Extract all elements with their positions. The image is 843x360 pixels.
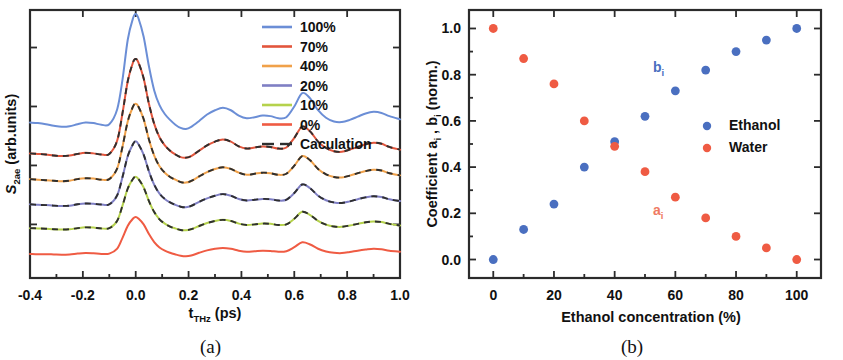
panel-b-y-tick: 0.6 [442,113,462,129]
panel-b-series-annotations: biai [653,59,664,221]
panel-b-x-tick: 100 [785,287,809,303]
panel-b-tick-marks [469,10,821,278]
panel-b-point-ethanol [489,255,498,264]
panel-b-legend-marker [703,144,711,152]
panel-b-point-water [489,24,498,33]
panel-b-point-ethanol [701,66,710,75]
panel-b-point-water [792,255,801,264]
panel-a-x-tick: 0.2 [179,287,199,303]
panel-a-plot: -0.4-0.20.00.20.40.60.81.0 100%70%40%20%… [0,0,421,340]
panel-b-point-ethanol [550,200,559,209]
panel-a-x-tick-labels: -0.4-0.20.00.20.40.60.81.0 [18,287,410,303]
panel-a-x-tick: 1.0 [390,287,410,303]
panel-a-x-tick: -0.4 [18,287,42,303]
panel-a-legend-label: Caculation [300,136,372,152]
panel-a-legend: 100%70%40%20%10%0%Caculation [262,19,372,152]
panel-b-x-tick: 20 [546,287,562,303]
panel-b-point-water [550,80,559,89]
panel-b-legend-label: Ethanol [729,117,780,133]
panel-a-x-tick: -0.2 [71,287,95,303]
panel-b-point-water [641,167,650,176]
panel-b-point-water [701,214,710,223]
panel-b-x-tick: 80 [728,287,744,303]
panel-b-y-tick: 0.8 [442,67,462,83]
panel-b-point-water [519,54,528,63]
panel-a-legend-label: 40% [300,58,329,74]
panel-b-annotation-ai: ai [653,202,663,221]
panel-b-point-water [671,193,680,202]
panel-b-annotation-bi: bi [653,59,664,78]
panel-b-y-axis-title: Coefficient ai , bi (norm.) [424,60,443,227]
panel-a-legend-label: 20% [300,78,329,94]
figure-container: -0.4-0.20.00.20.40.60.81.0 100%70%40%20%… [0,0,843,360]
panel-a-x-tick: 0.4 [232,287,252,303]
panel-a-legend-label: 0% [300,117,321,133]
panel-b-x-tick: 0 [489,287,497,303]
panel-b-point-ethanol [580,163,589,172]
panel-a-legend-label: 10% [300,97,329,113]
panel-b-point-water [580,116,589,125]
panel-a-caption: (a) [0,336,421,358]
panel-b-y-tick: 0.0 [442,252,462,268]
panel-a-x-tick: 0.6 [285,287,305,303]
panel-a-legend-label: 100% [300,19,336,35]
panel-b-point-water [762,244,771,253]
panel-b-point-ethanol [641,112,650,121]
panel-b-caption: (b) [421,336,843,358]
panel-b-y-tick: 1.0 [442,20,462,36]
panel-b-y-tick-labels: 0.00.20.40.60.81.0 [442,20,462,267]
panel-b-y-tick: 0.2 [442,205,462,221]
panel-b-point-water [732,232,741,241]
panel-b-plot: 020406080100 0.00.20.40.60.81.0 biai Eth… [421,0,843,340]
panel-b-point-ethanol [671,86,680,95]
panel-b-axes-frame [469,10,821,278]
panel-b-y-tick: 0.4 [442,159,462,175]
panel-a-legend-label: 70% [300,39,329,55]
panel-a: -0.4-0.20.00.20.40.60.81.0 100%70%40%20%… [0,0,421,360]
panel-b-x-tick-labels: 020406080100 [489,287,808,303]
panel-b-point-water [610,142,619,151]
panel-a-x-tick: 0.0 [126,287,146,303]
panel-b-point-ethanol [519,225,528,234]
panel-b-point-ethanol [762,36,771,45]
panel-b-legend-label: Water [729,139,768,155]
panel-b-legend: EthanolWater [703,117,781,155]
panel-a-x-axis-title: tTHz (ps) [189,305,242,324]
panel-a-x-tick: 0.8 [337,287,357,303]
panel-a-curve-0pct [30,217,400,256]
panel-b: 020406080100 0.00.20.40.60.81.0 biai Eth… [421,0,843,360]
panel-b-legend-marker [703,122,711,130]
panel-b-point-ethanol [732,47,741,56]
panel-a-y-axis-title: S2ae (arb.units) [3,94,22,195]
panel-b-x-axis-title: Ethanol concentration (%) [561,309,741,325]
panel-a-curve-100pct [30,14,400,129]
panel-b-x-tick: 60 [668,287,684,303]
panel-b-x-tick: 40 [607,287,623,303]
panel-b-point-ethanol [792,24,801,33]
